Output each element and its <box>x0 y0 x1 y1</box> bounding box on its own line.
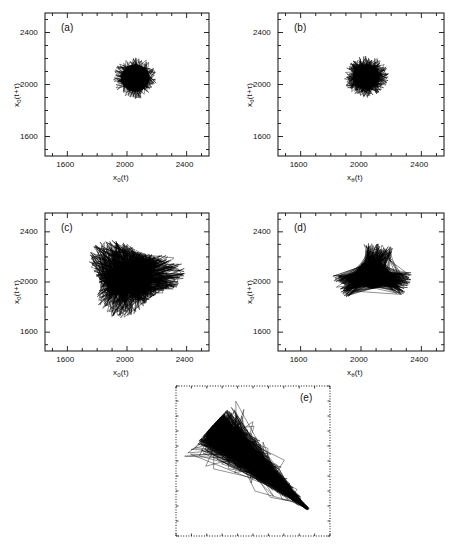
panel-tag-d: (d) <box>294 222 306 233</box>
panel-tag-c: (c) <box>61 222 73 233</box>
xtick-label-a-1: 2000 <box>116 160 134 169</box>
xtick-label-c-1: 2000 <box>116 355 134 364</box>
xtick-label-a-2: 2400 <box>176 160 194 169</box>
xtick-label-a-0: 1600 <box>56 160 74 169</box>
x-axis-label-b: xθ(t) <box>347 173 363 183</box>
attractor-trace-b <box>345 56 389 98</box>
xtick-label-b-0: 1600 <box>290 160 308 169</box>
xtick-label-c-2: 2400 <box>176 355 194 364</box>
y-axis-label-a: x0(t+τ) <box>12 82 22 106</box>
panel-tag-e: (e) <box>300 392 312 403</box>
xtick-label-d-0: 1600 <box>290 355 308 364</box>
xtick-label-d-2: 2400 <box>410 355 428 364</box>
panel-d: (d)160020002400160020002400xθ(t)xθ(t+τ) <box>234 195 468 385</box>
attractor-trace-d <box>333 243 412 297</box>
ytick-label-b-2: 2400 <box>253 28 271 37</box>
xtick-label-b-2: 2400 <box>410 160 428 169</box>
panel-c: (c)160020002400160020002400x0(t)x0(t+τ) <box>0 195 234 385</box>
panel-b: (b)160020002400160020002400xθ(t)xθ(t+τ) <box>234 0 468 195</box>
y-axis-label-c: x0(t+τ) <box>12 280 22 304</box>
panel-a: (a)160020002400160020002400x0(t)x0(t+τ) <box>0 0 234 195</box>
panel-tag-a: (a) <box>61 22 73 33</box>
x-axis-label-c: x0(t) <box>113 368 129 378</box>
attractor-trace-e <box>185 401 310 510</box>
ytick-label-a-2: 2400 <box>20 28 38 37</box>
xtick-label-c-0: 1600 <box>56 355 74 364</box>
ytick-label-c-1: 2000 <box>20 277 38 286</box>
xtick-label-d-1: 2000 <box>350 355 368 364</box>
ytick-label-c-0: 1600 <box>20 327 38 336</box>
attractor-trace-c <box>89 240 184 318</box>
xtick-label-b-1: 2000 <box>350 160 368 169</box>
ytick-label-b-0: 1600 <box>253 132 271 141</box>
ytick-label-a-1: 2000 <box>20 80 38 89</box>
ytick-label-b-1: 2000 <box>253 80 271 89</box>
y-axis-label-d: xθ(t+τ) <box>245 280 255 304</box>
ytick-label-d-1: 2000 <box>253 277 271 286</box>
x-axis-label-d: xθ(t) <box>347 368 363 378</box>
ytick-label-a-0: 1600 <box>20 132 38 141</box>
ytick-label-d-0: 1600 <box>253 327 271 336</box>
x-axis-label-a: x0(t) <box>113 173 129 183</box>
figure-phase-space-plots: (a)160020002400160020002400x0(t)x0(t+τ) … <box>0 0 468 551</box>
ytick-label-c-2: 2400 <box>20 227 38 236</box>
ytick-label-d-2: 2400 <box>253 227 271 236</box>
attractor-trace-a <box>114 58 157 99</box>
panel-tag-b: (b) <box>294 22 306 33</box>
panel-e: (e) <box>140 382 350 548</box>
y-axis-label-b: xθ(t+τ) <box>245 82 255 106</box>
